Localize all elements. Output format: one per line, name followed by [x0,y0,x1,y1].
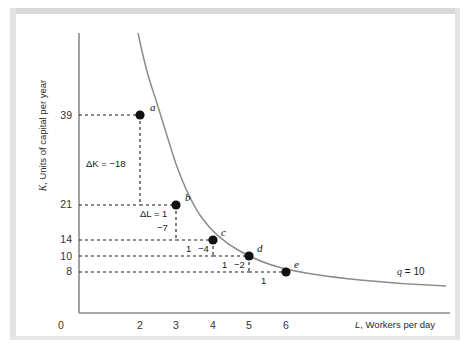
y-tick-39: 39 [44,110,72,121]
data-point-e[interactable] [281,267,290,276]
annotation-delta-k: ΔK = −18 [86,158,126,169]
y-tick-10: 10 [44,251,72,262]
point-label-c: c [221,227,226,238]
point-label-a: a [150,102,156,113]
chart-vector-layer [0,0,468,350]
point-label-b: b [185,192,191,203]
annotation-de-run: 1 [222,259,227,270]
y-tick-14: 14 [44,234,72,245]
y-axis-title: K, Units of capital per year [37,56,48,216]
x-tick-4: 4 [204,320,222,331]
annotation-bc-rise: −7 [157,222,168,233]
annotation-delta-l: ΔL = 1 [140,208,167,219]
y-tick-8: 8 [44,266,72,277]
data-point-d[interactable] [244,251,253,260]
x-axis-title: L, Workers per day [355,319,435,330]
y-axis-title-text: , Units of capital per year [37,80,48,185]
x-axis-title-text: , Workers per day [360,319,435,330]
annotation-cd-rise: −4 [198,243,209,254]
annotation-ef-run: 1 [261,275,266,286]
data-point-c[interactable] [208,235,217,244]
isoquant-curve [138,33,446,286]
isoquant-label: q = 10 [397,266,425,277]
point-label-e: e [294,259,299,270]
x-tick-3: 3 [167,320,185,331]
x-tick-2: 2 [131,320,149,331]
x-tick-6: 6 [277,320,295,331]
isoquant-figure: K, Units of capital per year 39 21 14 10… [0,0,468,350]
x-tick-5: 5 [240,320,258,331]
x-tick-0: 0 [52,320,70,331]
annotation-cd-run: 1 [186,243,191,254]
y-tick-21: 21 [44,199,72,210]
isoquant-label-value: = 10 [402,266,425,277]
annotation-de-rise: −2 [234,259,245,270]
point-label-d: d [257,243,263,254]
data-point-a[interactable] [135,110,144,119]
data-point-b[interactable] [171,200,180,209]
